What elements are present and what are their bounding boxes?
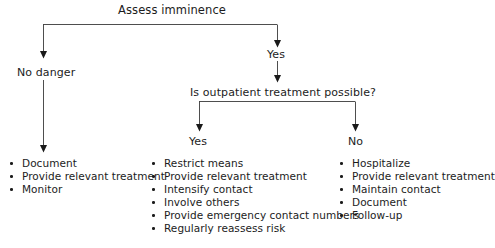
list-item: Involve others (152, 196, 359, 209)
list-item-label: Document (352, 196, 407, 208)
list-item-label: Maintain contact (352, 183, 441, 195)
bullet-point-icon (10, 188, 13, 191)
bullet-point-icon (340, 214, 343, 217)
decision-node-outpatient-treatment: Is outpatient treatment possible? (190, 86, 376, 99)
branch-label-outpatient-no: No (348, 135, 363, 148)
action-list-no-danger: DocumentProvide relevant treatmentMonito… (10, 157, 165, 196)
list-item-label: Follow-up (352, 209, 403, 221)
branch-label-outpatient-yes: Yes (189, 135, 207, 148)
bullet-point-icon (340, 175, 343, 178)
list-item-label: Regularly reassess risk (164, 222, 285, 234)
list-item-label: Document (22, 157, 77, 169)
bullet-point-icon (152, 227, 155, 230)
list-item: Regularly reassess risk (152, 222, 359, 235)
bullet-point-icon (10, 162, 13, 165)
list-item: Document (340, 196, 495, 209)
bullet-point-icon (152, 162, 155, 165)
branch-label-no-danger: No danger (17, 66, 75, 79)
list-item-label: Hospitalize (352, 157, 410, 169)
list-item-label: Restrict means (164, 157, 243, 169)
list-item: Monitor (10, 183, 165, 196)
branch-label-yes-top: Yes (267, 48, 285, 61)
list-item: Provide emergency contact numbers (152, 209, 359, 222)
arrowhead-outpatient-no (352, 124, 359, 132)
action-list-outpatient-yes: Restrict meansProvide relevant treatment… (152, 157, 359, 235)
list-item-label: Involve others (164, 196, 239, 208)
bullet-point-icon (152, 214, 155, 217)
list-item: Restrict means (152, 157, 359, 170)
list-item: Document (10, 157, 165, 170)
list-item: Maintain contact (340, 183, 495, 196)
bullet-point-icon (340, 188, 343, 191)
arrowhead-outpatient-yes (196, 124, 203, 132)
list-item: Intensify contact (152, 183, 359, 196)
arrowhead-no-danger-actions (40, 145, 47, 153)
list-item: Hospitalize (340, 157, 495, 170)
root-node-assess-imminence: Assess imminence (118, 4, 226, 17)
list-item-label: Provide relevant treatment (22, 170, 165, 182)
arrowhead-decision2 (274, 75, 281, 83)
list-item-label: Monitor (22, 183, 62, 195)
list-item: Provide relevant treatment (152, 170, 359, 183)
list-item-label: Provide emergency contact numbers (164, 209, 359, 221)
list-item-label: Provide relevant treatment (164, 170, 307, 182)
bullet-point-icon (152, 175, 155, 178)
bullet-point-icon (340, 201, 343, 204)
bullet-point-icon (152, 201, 155, 204)
list-item: Provide relevant treatment (340, 170, 495, 183)
bullet-point-icon (10, 175, 13, 178)
bullet-point-icon (152, 188, 155, 191)
list-item-label: Provide relevant treatment (352, 170, 495, 182)
list-item: Follow-up (340, 209, 495, 222)
action-list-outpatient-no: HospitalizeProvide relevant treatmentMai… (340, 157, 495, 222)
arrowhead-no-danger (40, 51, 47, 59)
arrowhead-yes-top (274, 40, 281, 48)
list-item-label: Intensify contact (164, 183, 253, 195)
list-item: Provide relevant treatment (10, 170, 165, 183)
bullet-point-icon (340, 162, 343, 165)
